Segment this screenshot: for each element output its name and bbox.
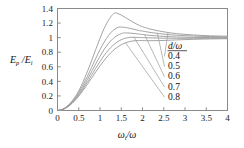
x-tick-label-2: 1 [98, 113, 103, 123]
x-tick-label-7: 3.5 [201, 113, 213, 123]
legend-label-0-4: 0.4 [168, 51, 180, 61]
legend-label-0-8: 0.8 [168, 92, 180, 102]
x-axis-tick-labels: 00.511.522.533.54 [55, 113, 230, 123]
x-tick-label-1: 0.5 [73, 113, 85, 123]
y-axis-label: Ep /Ei [9, 54, 33, 66]
x-tick-label-6: 3 [183, 113, 188, 123]
y-tick-label-3: 0.6 [42, 62, 54, 72]
legend-title: d/ω [168, 41, 182, 51]
y-axis-label-base: E [9, 54, 16, 65]
y-tick-label-4: 0.8 [42, 47, 54, 57]
x-axis-label-tail: /ω [126, 129, 137, 140]
y-axis-label-text: Ep /Ei [9, 54, 33, 66]
legend-label-0-6: 0.6 [168, 71, 180, 81]
x-axis-label-text: ωi/ω [118, 129, 137, 141]
x-axis-label: ωi/ω [118, 129, 137, 141]
y-axis-label-mid: /E [19, 54, 30, 65]
x-tick-label-8: 4 [225, 113, 230, 123]
chart-background [0, 0, 244, 148]
legend-label-0-7: 0.7 [168, 82, 180, 92]
y-tick-label-5: 1 [49, 33, 54, 43]
y-tick-label-7: 1.4 [42, 4, 54, 14]
y-tick-label-6: 1.2 [42, 18, 53, 28]
y-tick-label-1: 0.2 [42, 91, 53, 101]
x-tick-label-0: 0 [55, 113, 60, 123]
x-tick-label-3: 1.5 [116, 113, 128, 123]
legend-title-denominator: /ω [172, 41, 183, 51]
y-axis-label-sub-i: i [31, 59, 33, 66]
y-tick-label-0: 0 [49, 106, 54, 116]
x-tick-label-5: 2.5 [158, 113, 170, 123]
x-tick-label-4: 2 [140, 113, 145, 123]
x-axis-label-base: ω [118, 129, 125, 140]
chart-figure: 00.511.522.533.54 00.20.40.60.811.21.4 E… [0, 0, 244, 148]
y-tick-label-2: 0.4 [42, 77, 54, 87]
legend-label-0-5: 0.5 [168, 61, 180, 71]
